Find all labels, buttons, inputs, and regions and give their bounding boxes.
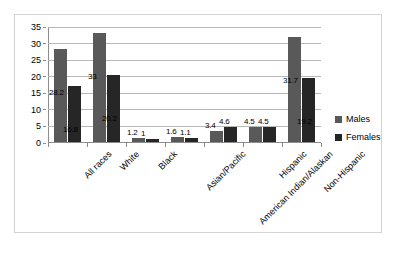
y-tick-mark [43,93,46,94]
y-tick-mark [43,27,46,28]
y-tick-label: 0 [36,139,41,148]
bar-group: 3320.2 [87,27,126,142]
bar-females[interactable] [224,127,237,142]
x-tick-mark [282,143,283,147]
bar-group: 4.54.5 [243,27,282,142]
bar-value-label: 16.8 [63,126,78,134]
bar-females[interactable] [107,75,120,142]
y-tick-label: 15 [31,89,41,98]
bar-value-label: 3.4 [205,122,216,130]
y-tick-label: 25 [31,56,41,65]
bar-value-label: 1.6 [166,128,177,136]
y-tick-mark [43,143,46,144]
bar-group: 3.44.6 [204,27,243,142]
bar-females[interactable] [263,127,276,142]
y-tick-mark [43,43,46,44]
bar-males[interactable] [132,138,145,142]
y-tick-label: 10 [31,105,41,114]
legend-item[interactable]: Males [335,115,395,124]
bar-value-label: 4.5 [258,118,269,126]
bar-females[interactable] [302,78,315,142]
bar-males[interactable] [171,137,184,142]
legend-item[interactable]: Females [335,133,395,142]
bar-males[interactable] [210,131,223,142]
bar-females[interactable] [146,139,159,142]
x-tick-mark [126,143,127,147]
bar-group: 1.21 [126,27,165,142]
bar-group: 28.216.8 [48,27,87,142]
legend-swatch-icon [335,116,342,123]
bar-value-label: 28.2 [49,89,64,97]
legend-label: Males [346,115,370,124]
y-tick-label: 35 [31,23,41,32]
x-axis-labels: All racesWhiteBlackAsian/PacificAmerican… [48,143,321,233]
bar-value-label: 1.1 [180,129,191,137]
y-tick-mark [43,60,46,61]
x-tick-mark [204,143,205,147]
x-category-label: Black [157,149,180,172]
y-tick-label: 30 [31,39,41,48]
y-tick-mark [43,76,46,77]
x-tick-mark [165,143,166,147]
plot-area: 28.216.83320.21.211.61.13.44.64.54.531.7… [48,27,321,143]
y-tick-label: 5 [36,122,41,131]
bar-value-label: 31.7 [283,77,298,85]
y-tick-label: 20 [31,72,41,81]
bar-value-label: 4.5 [244,118,255,126]
x-tick-mark [321,143,322,147]
x-category-label: Asian/Pacific [204,149,248,193]
bar-males[interactable] [249,127,262,142]
x-tick-mark [243,143,244,147]
legend-swatch-icon [335,134,342,141]
chart-frame: 05101520253035 28.216.83320.21.211.61.13… [14,14,382,233]
x-tick-mark [87,143,88,147]
bar-value-label: 4.6 [219,118,230,126]
bar-females[interactable] [185,138,198,142]
bar-value-label: 1 [141,130,145,138]
bar-group: 31.719.2 [282,27,321,142]
bar-group: 1.61.1 [165,27,204,142]
y-axis: 05101520253035 [15,27,46,143]
bar-value-label: 1.2 [127,129,138,137]
bar-value-label: 20.2 [102,115,117,123]
y-tick-mark [43,126,46,127]
legend-label: Females [346,133,381,142]
bar-males[interactable] [93,33,106,142]
x-category-label: All races [82,149,113,180]
bar-value-label: 33 [88,73,97,81]
x-category-label: White [118,149,141,172]
bar-value-label: 19.2 [297,118,312,126]
y-tick-mark [43,109,46,110]
x-tick-mark [48,143,49,147]
chart-legend: MalesFemales [335,115,395,151]
